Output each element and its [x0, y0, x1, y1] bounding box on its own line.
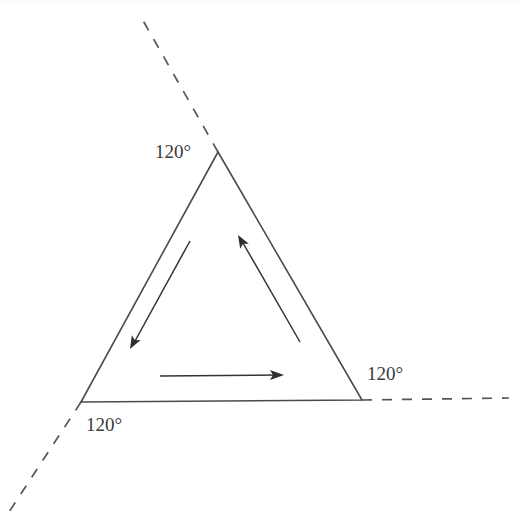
right-angle-label: 120°	[367, 363, 403, 384]
upper-left-dashed-ray	[141, 17, 218, 152]
triangle-fill	[81, 152, 362, 402]
triangle-group	[81, 152, 362, 402]
right-dashed-ray	[362, 398, 509, 400]
diagram-root: 120° 120° 120°	[0, 0, 521, 532]
top-angle-label: 120°	[155, 141, 191, 162]
base-arrow-shaft	[160, 375, 275, 376]
lower-left-dashed-ray	[9, 402, 81, 512]
bottom-left-angle-label: 120°	[86, 414, 122, 435]
triangle-diagram-canvas: 120° 120° 120°	[0, 0, 521, 532]
